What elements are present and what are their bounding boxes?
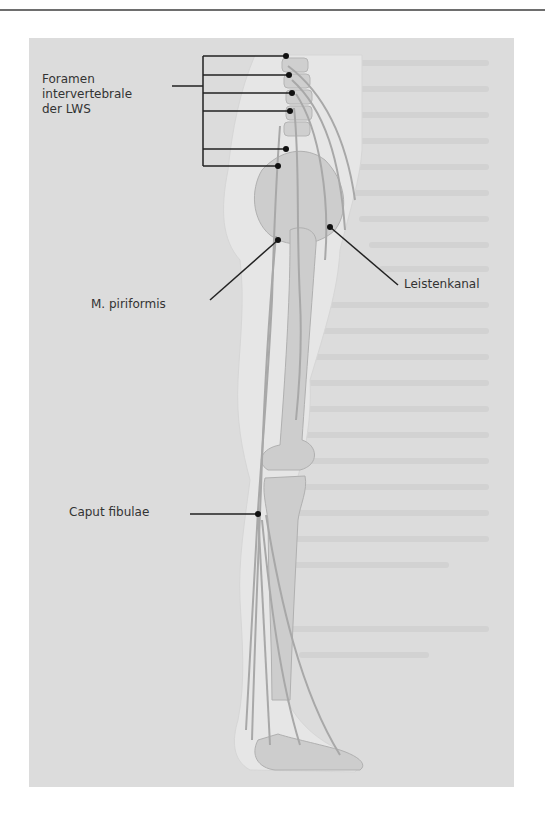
label-foramen-intervertebrale: Foramen intervertebrale der LWS: [42, 72, 132, 117]
leg-nerve-illustration: [0, 0, 545, 813]
label-leistenkanal: Leistenkanal: [404, 277, 480, 292]
label-caput-fibulae: Caput fibulae: [69, 505, 149, 520]
label-m-piriformis: M. piriformis: [91, 297, 166, 312]
